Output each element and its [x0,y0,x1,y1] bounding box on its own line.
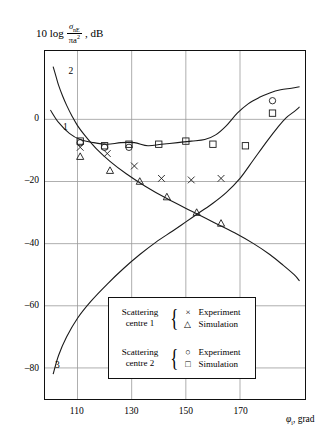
curve-label-2: 2 [69,66,74,76]
y-axis-label: 10 log σnE πa2 , dB [36,22,103,44]
y-tick-label: –40 [13,238,39,248]
data-markers [77,98,276,227]
legend-group-2: Scatteringcentre 2 { ○ Experiment □ Simu… [109,338,255,378]
brace-icon: { [170,308,178,329]
y-axis-label-units: , dB [85,27,103,39]
legend-box: Scatteringcentre 1 { × Experiment △ Simu… [108,297,256,379]
brace-icon: { [170,348,178,369]
circle-marker [101,144,107,150]
legend-item: □ Simulation [182,359,240,369]
x-tick-label: 130 [116,406,146,416]
y-tick-label: –60 [13,300,39,310]
legend-group-1-title: Scatteringcentre 1 [113,307,167,329]
cross-marker-icon: × [182,308,193,317]
triangle-marker-icon: △ [182,320,193,329]
legend-group-2-title: Scatteringcentre 2 [113,347,167,369]
legend-item-label: Experiment [198,307,240,317]
square-marker [210,141,216,147]
legend-item: × Experiment [182,307,240,317]
circle-marker [269,98,275,104]
legend-group-1: Scatteringcentre 1 { × Experiment △ Simu… [109,298,255,338]
cross-marker [158,175,165,182]
cross-marker [218,175,225,182]
x-tick-label: 110 [62,406,92,416]
x-tick-label: 150 [171,406,201,416]
square-marker [269,110,275,116]
y-tick-label: –80 [13,363,39,373]
curve-1 [50,87,299,146]
curve-label-1: 1 [63,122,68,132]
triangle-marker [106,167,113,174]
y-axis-label-numerator: σnE [67,22,82,33]
curve-label-3: 3 [55,360,60,370]
x-axis-label: φi, grad [286,414,315,426]
y-tick-label: 0 [13,113,39,123]
legend-item-label: Simulation [198,359,238,369]
legend-item: ○ Experiment [182,347,240,357]
cross-marker [188,177,195,184]
curve-2 [53,67,299,281]
y-tick-label: –20 [13,175,39,185]
y-axis-label-fraction: σnE πa2 [67,22,82,44]
legend-item: △ Simulation [182,319,240,329]
square-marker [242,143,248,149]
legend-group-2-entries: ○ Experiment □ Simulation [182,347,240,369]
x-tick-label: 170 [226,406,256,416]
legend-item-label: Simulation [198,319,238,329]
square-marker-icon: □ [182,360,193,369]
figure-container: 10 log σnE πa2 , dB 0 –20 –40 –60 –80 11… [0,0,319,442]
y-axis-label-lead: 10 log [36,27,64,39]
y-axis-label-denominator: πa2 [67,34,82,44]
circle-marker-icon: ○ [182,348,193,357]
cross-marker [104,150,111,157]
legend-item-label: Experiment [198,347,240,357]
legend-group-1-entries: × Experiment △ Simulation [182,307,240,329]
